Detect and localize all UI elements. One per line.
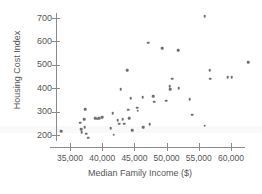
- data-point: [203, 15, 206, 18]
- y-tick-label: 200: [22, 131, 52, 140]
- y-axis-line: [56, 13, 57, 141]
- data-point: [83, 118, 86, 121]
- x-tick-label: 50,000: [154, 153, 180, 163]
- x-tick-mark: [231, 143, 232, 151]
- x-tick-label: 60,000: [218, 153, 244, 163]
- y-tick-mark: [52, 88, 60, 89]
- data-point: [165, 99, 168, 102]
- data-point: [128, 117, 131, 120]
- data-point: [191, 113, 194, 116]
- data-point: [230, 76, 233, 79]
- data-point: [177, 49, 180, 52]
- x-tick-mark: [102, 143, 103, 151]
- data-point: [188, 98, 191, 101]
- data-point: [120, 88, 123, 91]
- y-tick-label-wrap: 700: [0, 14, 52, 23]
- x-axis-title: Median Family Income ($): [40, 168, 240, 178]
- data-point: [178, 87, 181, 90]
- x-axis-line: [50, 147, 245, 148]
- data-point: [79, 122, 82, 125]
- y-tick-label: 400: [22, 84, 52, 93]
- y-tick-label-wrap: 500: [0, 60, 52, 69]
- x-tick-label: 40,000: [89, 153, 115, 163]
- y-tick-label: 600: [22, 37, 52, 46]
- data-point: [112, 133, 115, 136]
- y-tick-label-wrap: 600: [0, 37, 52, 46]
- data-point: [60, 130, 63, 133]
- data-point: [136, 109, 139, 112]
- scatter-chart: Housing Cost Index 200300400500600700 35…: [0, 0, 262, 194]
- data-point: [123, 122, 126, 125]
- y-tick-mark: [52, 112, 60, 113]
- data-point: [203, 124, 206, 127]
- data-point: [87, 137, 90, 140]
- y-tick-mark: [52, 18, 60, 19]
- y-tick-mark: [52, 135, 60, 136]
- data-point: [152, 95, 155, 98]
- data-point: [126, 69, 129, 72]
- x-tick-label: 45,000: [121, 153, 147, 163]
- y-tick-label-wrap: 200: [0, 131, 52, 140]
- y-tick-mark: [52, 65, 60, 66]
- x-tick-mark: [167, 143, 168, 151]
- data-point: [208, 69, 211, 72]
- data-point: [153, 100, 156, 103]
- y-tick-label: 500: [22, 60, 52, 69]
- data-point: [80, 131, 83, 134]
- data-point: [161, 47, 164, 50]
- y-tick-label-wrap: 300: [0, 107, 52, 116]
- data-point: [141, 96, 144, 99]
- data-point: [98, 117, 101, 120]
- y-tick-mark: [52, 41, 60, 42]
- data-point: [142, 126, 145, 129]
- data-point: [226, 76, 229, 79]
- y-tick-label-wrap: 400: [0, 84, 52, 93]
- x-tick-mark: [199, 143, 200, 151]
- data-point: [131, 129, 134, 132]
- data-point: [109, 127, 112, 130]
- data-point: [247, 61, 250, 64]
- x-tick-label: 35,000: [57, 153, 83, 163]
- data-point: [111, 112, 114, 115]
- data-point: [118, 122, 121, 125]
- data-point: [147, 41, 150, 44]
- data-point: [169, 88, 172, 91]
- data-point: [209, 78, 212, 81]
- x-tick-label: 55,000: [186, 153, 212, 163]
- data-point: [85, 132, 88, 135]
- data-point: [149, 123, 152, 126]
- data-point: [122, 118, 125, 121]
- data-point: [171, 77, 174, 80]
- data-point: [84, 126, 87, 129]
- y-tick-label: 300: [22, 107, 52, 116]
- data-point: [129, 97, 132, 100]
- data-point: [127, 108, 130, 111]
- data-point: [101, 116, 104, 119]
- y-tick-label: 700: [22, 14, 52, 23]
- data-point: [84, 108, 87, 111]
- x-tick-mark: [134, 143, 135, 151]
- x-tick-mark: [70, 143, 71, 151]
